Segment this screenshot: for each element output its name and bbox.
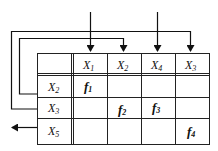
col-header-3: X4 [150,58,162,73]
row-headers: X2 X3 X5 [47,80,59,139]
design-structure-matrix-diagram: X1 X2 X4 X3 X2 X3 X5 f1 f2 f3 f4 [0,0,218,151]
cell-f4: f4 [187,124,195,139]
cell-f1: f1 [84,79,92,94]
row-header-3: X5 [47,124,59,139]
col-header-4: X3 [184,58,196,73]
cell-f3: f3 [152,100,160,115]
flow-arrows [12,12,191,128]
column-headers: X1 X2 X4 X3 [82,58,196,73]
matrix-cells: f1 f2 f3 f4 [84,79,195,139]
row-header-2: X3 [47,101,59,116]
row-header-1: X2 [47,80,59,95]
col-header-2: X2 [116,58,128,73]
cell-f2: f2 [118,102,126,117]
col-header-1: X1 [82,58,94,73]
